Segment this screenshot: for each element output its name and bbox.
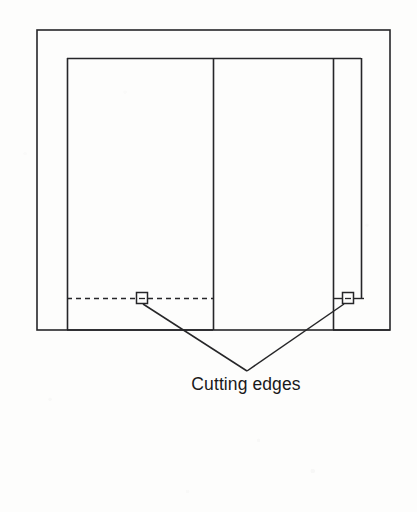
cutting-edges-diagram: Cutting edges [0,0,417,512]
leader-line-left [143,304,247,371]
cutting-edge-marker-left [137,293,148,304]
cutting-edge-marker-right [343,293,354,304]
figure-page: Cutting edges [0,0,417,512]
callout-label: Cutting edges [191,374,300,394]
leader-line-right [247,304,344,371]
